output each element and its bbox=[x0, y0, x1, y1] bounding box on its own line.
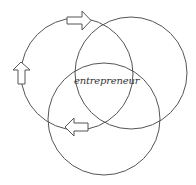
right-circle bbox=[75, 17, 187, 129]
center-label: entrepreneur bbox=[74, 75, 139, 86]
left-circle bbox=[21, 18, 133, 130]
arrow-left-icon bbox=[65, 118, 88, 136]
venn-diagram bbox=[0, 0, 196, 185]
arrow-right-icon bbox=[67, 11, 91, 30]
arrow-up-icon bbox=[13, 62, 30, 84]
